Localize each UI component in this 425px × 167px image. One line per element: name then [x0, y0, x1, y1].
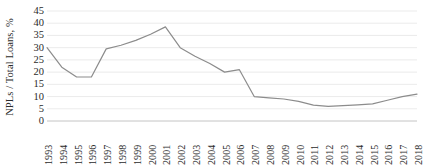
y-axis-tick-label: 40: [18, 18, 44, 29]
x-axis-tick-label: 2008: [265, 121, 276, 165]
x-axis-tick-label: 2010: [295, 121, 306, 165]
x-axis-tick-label: 2001: [161, 121, 172, 165]
y-axis-tick-label: 0: [18, 116, 44, 127]
x-axis-tick-label: 2013: [339, 121, 350, 165]
x-axis-tick-label: 2017: [398, 121, 409, 165]
x-axis-tick-label: 1999: [132, 121, 143, 165]
plot-svg: [47, 11, 417, 121]
series-group: [47, 27, 417, 106]
y-axis-tick-labels: 051015202530354045: [18, 0, 44, 167]
x-axis-tick-label: 1994: [58, 121, 69, 165]
x-axis-tick-label: 2004: [206, 121, 217, 165]
y-axis-title: NPLs / Total Loans, %: [2, 6, 18, 128]
x-axis-tick-label: 2009: [280, 121, 291, 165]
x-axis-tick-label: 1998: [117, 121, 128, 165]
x-axis-tick-label: 2000: [147, 121, 158, 165]
y-axis-tick-label: 10: [18, 91, 44, 102]
x-axis-tick-label: 2012: [324, 121, 335, 165]
plot-area: [47, 11, 417, 121]
x-axis-tick-label: 2003: [191, 121, 202, 165]
y-axis-tick-label: 20: [18, 67, 44, 78]
x-axis-tick-label: 2014: [354, 121, 365, 165]
y-axis-tick-label: 35: [18, 30, 44, 41]
x-axis-tick-labels: 1993199419951996199719981999200020012002…: [47, 121, 417, 167]
x-axis-tick-label: 2015: [369, 121, 380, 165]
x-axis-tick-label: 2002: [176, 121, 187, 165]
y-axis-tick-label: 30: [18, 42, 44, 53]
x-axis-tick-label: 1993: [43, 121, 54, 165]
y-axis-tick-label: 45: [18, 6, 44, 17]
x-axis-tick-label: 1996: [87, 121, 98, 165]
x-axis-tick-label: 2016: [383, 121, 394, 165]
x-axis-tick-label: 1997: [102, 121, 113, 165]
x-axis-tick-label: 2007: [250, 121, 261, 165]
line-chart: NPLs / Total Loans, % 051015202530354045…: [0, 0, 425, 167]
series-line: [47, 27, 417, 106]
x-axis-tick-label: 2006: [235, 121, 246, 165]
x-axis-tick-label: 2018: [413, 121, 424, 165]
x-axis-tick-label: 1995: [73, 121, 84, 165]
y-axis-tick-label: 5: [18, 104, 44, 115]
y-axis-tick-label: 15: [18, 79, 44, 90]
y-axis-tick-label: 25: [18, 55, 44, 66]
x-axis-tick-label: 2005: [221, 121, 232, 165]
x-axis-tick-label: 2011: [309, 121, 320, 165]
